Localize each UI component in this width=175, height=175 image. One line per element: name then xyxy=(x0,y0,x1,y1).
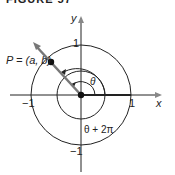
y-axis-label: y xyxy=(71,13,77,24)
tick-pos-x: 1 xyxy=(129,98,135,109)
y-axis-arrow-icon xyxy=(78,16,84,23)
point-p-label: P = (a, b) xyxy=(6,55,51,66)
tick-pos-y: 1 xyxy=(73,38,79,49)
theta-plus-2pi-label: θ + 2π xyxy=(84,125,113,135)
tick-neg-x: −1 xyxy=(22,98,35,109)
x-axis-label: x xyxy=(156,98,162,109)
tick-neg-y: −1 xyxy=(70,146,83,157)
theta-label: θ xyxy=(90,77,95,87)
origin-point xyxy=(78,92,84,98)
unit-circle-diagram xyxy=(0,0,175,175)
